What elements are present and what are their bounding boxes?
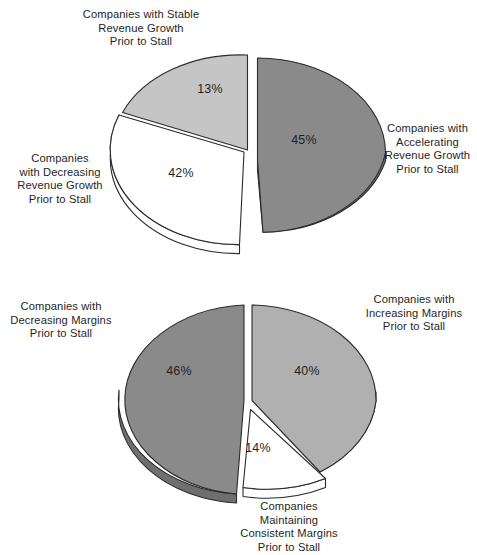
pie-charts-figure: 45% 13% 42% 46% 40% 14% Companies with S… [0,0,477,555]
revenue-growth-pie: 45% 13% 42% [110,55,385,254]
label-increasing-margins: Companies with Increasing Margins Prior … [352,293,476,334]
label-stable-revenue-growth: Companies with Stable Revenue Growth Pri… [54,8,228,49]
slice-percent-13: 13% [197,82,223,96]
margins-pie: 46% 40% 14% [118,305,376,503]
slice-percent-40: 40% [294,364,320,378]
label-accelerating-revenue-growth: Companies with Accelerating Revenue Grow… [378,122,477,176]
slice-percent-42: 42% [168,166,194,180]
slice-accelerating-revenue-top [258,58,386,232]
pie-chart-canvas: 45% 13% 42% 46% 40% 14% [0,0,477,555]
label-consistent-margins: Companies Maintaining Consistent Margins… [224,500,354,554]
slice-decreasing-margins-top [125,305,244,494]
label-decreasing-revenue-growth: Companies with Decreasing Revenue Growth… [2,152,118,206]
slice-percent-14: 14% [245,441,271,455]
label-decreasing-margins: Companies with Decreasing Margins Prior … [2,300,120,341]
slice-percent-45: 45% [291,133,317,147]
slice-percent-46: 46% [166,364,192,378]
